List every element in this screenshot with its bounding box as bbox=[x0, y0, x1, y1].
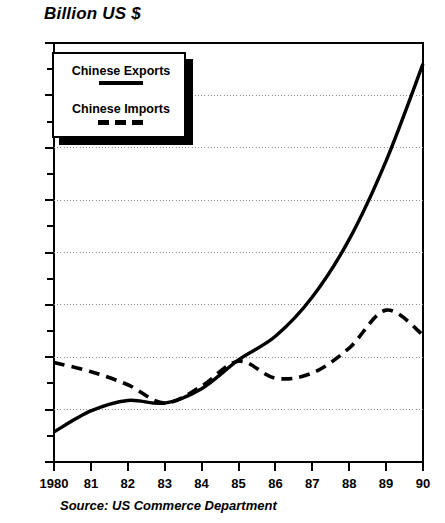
x-axis-tick-label: 90 bbox=[416, 476, 430, 491]
legend-swatch-solid-line bbox=[99, 81, 143, 85]
x-axis-tick-label: 81 bbox=[84, 476, 98, 491]
legend-label-imports: Chinese Imports bbox=[54, 102, 188, 116]
x-axis-tick-label: 82 bbox=[121, 476, 135, 491]
legend-label-exports: Chinese Exports bbox=[54, 64, 188, 78]
legend-swatch-dashed-line bbox=[98, 120, 144, 125]
x-axis-tick-label: 86 bbox=[268, 476, 282, 491]
x-axis-tick-label: 84 bbox=[194, 476, 208, 491]
chart-container: Billion US $ 0246810121416 1980818283848… bbox=[0, 0, 445, 523]
x-axis-tick-label: 85 bbox=[231, 476, 245, 491]
source-note: Source: US Commerce Department bbox=[60, 498, 277, 513]
x-axis-tick-label: 1980 bbox=[40, 476, 69, 491]
x-axis-tick-label: 87 bbox=[305, 476, 319, 491]
x-axis-tick-label: 89 bbox=[379, 476, 393, 491]
legend-item-imports: Chinese Imports bbox=[54, 102, 188, 125]
legend-item-exports: Chinese Exports bbox=[54, 64, 188, 85]
chart-legend: Chinese Exports Chinese Imports bbox=[52, 52, 186, 138]
x-axis-tick-label: 88 bbox=[342, 476, 356, 491]
legend-box: Chinese Exports Chinese Imports bbox=[52, 52, 186, 138]
x-axis-tick-label: 83 bbox=[157, 476, 171, 491]
